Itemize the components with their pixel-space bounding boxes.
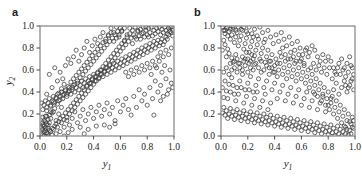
y-tick-label: 0.8 xyxy=(22,43,34,53)
x-axis-title: y1 xyxy=(283,157,293,172)
y-tick-label: 0.0 xyxy=(203,131,215,141)
y-tick-label: 0.6 xyxy=(22,65,34,75)
y-axis-title: y2 xyxy=(2,76,17,86)
x-tick-label: 1.0 xyxy=(349,142,361,152)
y-tick-label: 0.8 xyxy=(203,43,215,53)
y-tick-label: 0.4 xyxy=(203,87,215,97)
x-axis-title: y1 xyxy=(102,157,112,172)
x-tick-label: 0.6 xyxy=(295,142,307,152)
panel-a: a 0.00.20.40.60.81.00.00.20.40.60.81.0y1… xyxy=(0,0,181,178)
y-tick-label: 0.2 xyxy=(22,109,34,119)
x-tick-label: 0.4 xyxy=(269,142,281,152)
y-tick-label: 0.2 xyxy=(203,109,215,119)
panel-b: b 0.00.20.40.60.81.00.00.20.40.60.81.0y1 xyxy=(181,0,362,178)
y-tick-label: 0.4 xyxy=(22,87,34,97)
figure-container: a 0.00.20.40.60.81.00.00.20.40.60.81.0y1… xyxy=(0,0,362,178)
y-tick-label: 1.0 xyxy=(203,21,215,31)
x-tick-label: 0.8 xyxy=(141,142,153,152)
x-tick-label: 0.4 xyxy=(88,142,100,152)
x-tick-label: 0.2 xyxy=(242,142,254,152)
panel-b-plot: 0.00.20.40.60.81.00.00.20.40.60.81.0y1 xyxy=(181,0,362,178)
x-tick-label: 0.8 xyxy=(322,142,334,152)
x-tick-label: 0.2 xyxy=(61,142,73,152)
y-tick-label: 0.6 xyxy=(203,65,215,75)
x-tick-label: 0.0 xyxy=(34,142,46,152)
panel-a-plot: 0.00.20.40.60.81.00.00.20.40.60.81.0y1y2 xyxy=(0,0,181,178)
x-tick-label: 0.6 xyxy=(114,142,126,152)
x-tick-label: 1.0 xyxy=(168,142,180,152)
y-tick-label: 1.0 xyxy=(22,21,34,31)
y-tick-label: 0.0 xyxy=(22,131,34,141)
x-tick-label: 0.0 xyxy=(215,142,227,152)
